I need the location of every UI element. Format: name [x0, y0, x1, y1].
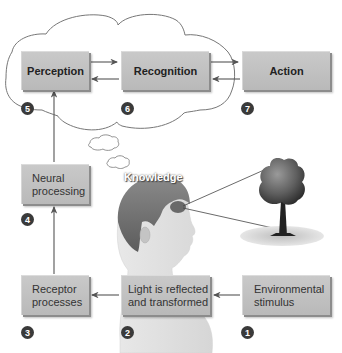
step-badge-5: 5	[21, 102, 34, 115]
step-badge-1: 1	[241, 326, 254, 339]
stage-receptor-processes-line1: Receptor	[32, 283, 82, 296]
stage-environmental-stimulus: Environmental stimulus	[242, 275, 330, 315]
stage-receptor-processes: Receptor processes	[21, 275, 89, 315]
stage-environmental-stimulus-line1: Environmental	[254, 283, 324, 296]
stage-neural-processing-line1: Neural	[32, 172, 85, 185]
step-badge-7: 7	[241, 102, 254, 115]
step-badge-4: 4	[21, 213, 34, 226]
step-badge-2: 2	[121, 326, 134, 339]
stage-light-reflected: Light is reflected and transformed	[121, 275, 210, 315]
stage-recognition-label: Recognition	[134, 65, 198, 78]
tree-illustration	[240, 158, 324, 246]
stage-light-reflected-line1: Light is reflected	[128, 283, 208, 296]
step-badge-3: 3	[21, 326, 34, 339]
knowledge-label: Knowledge	[124, 171, 183, 183]
thought-bubble-clouds	[89, 135, 130, 169]
perceptual-process-diagram: Perception Recognition Action Neural pro…	[0, 0, 342, 353]
stage-action: Action	[242, 51, 330, 90]
stage-neural-processing-line2: processing	[32, 185, 85, 198]
stage-receptor-processes-line2: processes	[32, 296, 82, 309]
stage-perception: Perception	[21, 51, 89, 90]
head-illustration	[117, 176, 212, 353]
stage-perception-label: Perception	[27, 65, 84, 78]
step-badge-6: 6	[121, 102, 134, 115]
stage-action-label: Action	[269, 65, 303, 78]
stage-recognition: Recognition	[121, 51, 209, 90]
stage-environmental-stimulus-line2: stimulus	[254, 296, 324, 309]
stage-light-reflected-line2: and transformed	[128, 296, 208, 309]
stage-neural-processing: Neural processing	[21, 164, 89, 204]
